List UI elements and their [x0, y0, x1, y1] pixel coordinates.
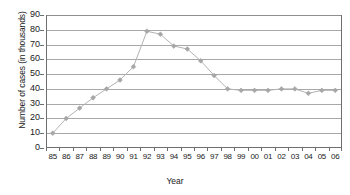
- data-point-marker: [239, 88, 244, 93]
- y-tick-label: 60: [22, 54, 40, 63]
- x-tick-mark: [113, 147, 114, 151]
- y-tick-mark: [40, 74, 44, 75]
- y-tick-mark: [40, 59, 44, 60]
- y-tick-mark: [40, 148, 44, 149]
- x-tick-mark: [46, 147, 47, 151]
- data-series-line: [46, 15, 342, 148]
- data-point-marker: [293, 86, 298, 91]
- x-tick-mark: [248, 147, 249, 151]
- x-tick-mark: [302, 147, 303, 151]
- x-tick-mark: [207, 147, 208, 151]
- x-axis-title: Year: [0, 176, 350, 186]
- y-tick-label: 0: [22, 143, 40, 152]
- x-tick-mark: [315, 147, 316, 151]
- y-tick-mark: [40, 133, 44, 134]
- y-tick-label: 90: [22, 10, 40, 19]
- data-point-marker: [252, 88, 257, 93]
- x-axis-tick-labels: 8586878889909192939495969798990001020304…: [46, 151, 342, 165]
- data-point-marker: [319, 88, 324, 93]
- x-tick-mark: [221, 147, 222, 151]
- y-tick-label: 50: [22, 69, 40, 78]
- x-tick-mark: [275, 147, 276, 151]
- data-point-marker: [333, 88, 338, 93]
- x-tick-mark: [73, 147, 74, 151]
- y-tick-label: 70: [22, 40, 40, 49]
- y-tick-label: 80: [22, 25, 40, 34]
- x-tick-mark: [181, 147, 182, 151]
- y-tick-mark: [40, 45, 44, 46]
- y-axis-tick-labels: 0102030405060708090: [20, 15, 40, 148]
- y-tick-label: 20: [22, 113, 40, 122]
- y-tick-mark: [40, 104, 44, 105]
- x-tick-mark: [234, 147, 235, 151]
- y-tick-label: 30: [22, 99, 40, 108]
- y-tick-label: 40: [22, 84, 40, 93]
- x-tick-mark: [329, 147, 330, 151]
- x-tick-mark: [127, 147, 128, 151]
- data-point-marker: [266, 88, 271, 93]
- y-tick-mark: [40, 30, 44, 31]
- x-tick-mark: [288, 147, 289, 151]
- x-tick-mark: [140, 147, 141, 151]
- data-point-marker: [279, 86, 284, 91]
- x-tick-mark: [100, 147, 101, 151]
- y-tick-label: 10: [22, 128, 40, 137]
- x-tick-mark: [261, 147, 262, 151]
- y-tick-mark: [40, 15, 44, 16]
- x-tick-mark: [59, 147, 60, 151]
- series-line: [53, 31, 336, 133]
- x-tick-label: 06: [327, 153, 343, 161]
- x-tick-mark: [167, 147, 168, 151]
- x-tick-mark: [86, 147, 87, 151]
- x-tick-mark: [154, 147, 155, 151]
- y-tick-mark: [40, 89, 44, 90]
- x-tick-mark: [194, 147, 195, 151]
- plot-area: [46, 15, 342, 148]
- line-chart: Number of cases (in thousands) 010203040…: [0, 0, 350, 195]
- x-tick-mark: [341, 147, 342, 151]
- y-tick-mark: [40, 118, 44, 119]
- data-point-marker: [306, 91, 311, 96]
- data-point-marker: [145, 29, 150, 34]
